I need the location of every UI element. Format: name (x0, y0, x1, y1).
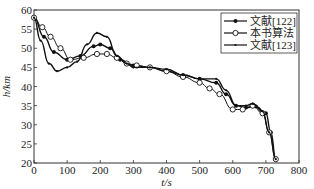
marker-open-circle (68, 57, 73, 62)
marker-open-circle (58, 46, 63, 51)
marker-filled-dot (52, 50, 56, 54)
y-tick-label: 50 (21, 42, 33, 54)
marker-small-dot (245, 105, 247, 107)
marker-open-circle (94, 51, 99, 56)
x-tick-label: 200 (92, 164, 109, 176)
marker-filled-dot (214, 81, 218, 85)
marker-small-dot (261, 110, 263, 112)
marker-open-circle (233, 30, 238, 35)
y-tick-label: 30 (21, 119, 33, 131)
marker-open-circle (197, 80, 202, 85)
marker-small-dot (126, 62, 128, 64)
y-tick-label: 35 (21, 100, 33, 112)
marker-small-dot (182, 74, 184, 76)
x-axis-label: t/s (161, 176, 171, 188)
x-tick-label: 500 (191, 164, 208, 176)
x-tick-label: 0 (31, 164, 37, 176)
marker-filled-dot (224, 92, 228, 96)
marker-small-dot (76, 61, 78, 63)
marker-small-dot (96, 32, 98, 34)
x-tick-label: 700 (258, 164, 275, 176)
marker-filled-dot (98, 42, 102, 46)
x-tick-label: 400 (158, 164, 175, 176)
marker-small-dot (66, 66, 68, 68)
marker-small-dot (33, 17, 35, 19)
x-tick-label: 100 (59, 164, 76, 176)
marker-open-circle (217, 92, 222, 97)
marker-small-dot (199, 78, 201, 80)
y-tick-label: 20 (21, 157, 33, 169)
marker-small-dot (86, 43, 88, 45)
marker-small-dot (235, 105, 237, 107)
legend: 文献[122]本书算法文献[123] (221, 13, 297, 53)
marker-small-dot (106, 36, 108, 38)
y-tick-label: 25 (21, 138, 33, 150)
marker-small-dot (165, 68, 167, 70)
y-axis-label: h/km (0, 76, 12, 97)
marker-open-circle (48, 34, 53, 39)
marker-small-dot (56, 70, 58, 72)
marker-small-dot (132, 66, 134, 68)
y-tick-label: 45 (21, 61, 33, 73)
marker-open-circle (230, 107, 235, 112)
marker-small-dot (116, 55, 118, 57)
marker-small-dot (149, 66, 151, 68)
marker-open-circle (104, 51, 109, 56)
legend-label: 文献[123] (250, 38, 296, 51)
legend-label: 本书算法 (250, 26, 294, 39)
marker-small-dot (268, 131, 270, 133)
x-tick-label: 300 (125, 164, 142, 176)
marker-filled-dot (42, 35, 46, 39)
marker-small-dot (234, 44, 236, 46)
marker-small-dot (40, 40, 42, 42)
marker-filled-dot (234, 19, 238, 23)
marker-small-dot (225, 89, 227, 91)
marker-small-dot (48, 62, 50, 64)
marker-open-circle (81, 55, 86, 60)
x-tick-label: 800 (291, 164, 308, 176)
altitude-time-chart: 0100200300400500600700800202530354045505… (0, 0, 314, 189)
marker-small-dot (215, 78, 217, 80)
marker-small-dot (275, 158, 277, 160)
marker-open-circle (207, 86, 212, 91)
y-tick-label: 55 (21, 23, 33, 35)
marker-small-dot (252, 103, 254, 105)
marker-open-circle (40, 25, 45, 30)
marker-open-circle (240, 107, 245, 112)
legend-label: 文献[122] (250, 14, 296, 27)
x-tick-label: 600 (225, 164, 242, 176)
y-tick-label: 40 (21, 81, 33, 93)
y-tick-label: 60 (21, 4, 33, 16)
marker-filled-dot (92, 44, 96, 48)
